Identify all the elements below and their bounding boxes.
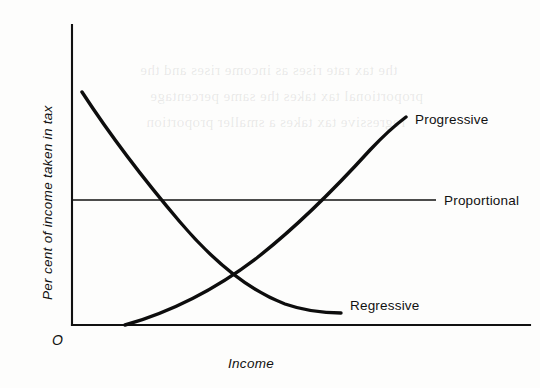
tax-progressivity-figure: the tax rate rises as income rises and t… [0, 0, 540, 388]
x-axis-label: Income [228, 356, 274, 371]
curve-regressive [82, 92, 341, 313]
y-axis-label: Per cent of income taken in tax [40, 104, 55, 300]
curve-label-progressive: Progressive [415, 112, 488, 127]
curve-label-regressive: Regressive [350, 298, 420, 313]
chart-canvas: Progressive Proportional Regressive O Pe… [0, 0, 540, 388]
curve-label-proportional: Proportional [444, 193, 519, 208]
origin-label: O [52, 332, 63, 348]
